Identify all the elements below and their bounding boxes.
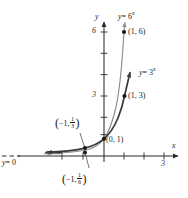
curve-label-3-eq: = 3 <box>143 68 154 77</box>
fraction-one-third: 13 <box>70 116 75 130</box>
curve-label-3-to-the-x: y= 3x <box>139 66 156 77</box>
point-label-0-1: (0, 1) <box>106 136 123 144</box>
paren-close-sixth: ) <box>83 172 87 186</box>
exponential-functions-graph: y x 6 3 3 y= 6x y= 3x (1, 6) (1, 3) (0, … <box>0 0 188 198</box>
marker-neg1-sixth <box>83 151 87 155</box>
lead-neg1-third: −1, <box>59 119 70 128</box>
fraction-one-sixth: 16 <box>77 172 82 186</box>
marker-1-6 <box>122 30 126 34</box>
point-label-1-3: (1, 3) <box>128 92 145 100</box>
x-axis-label: x <box>172 142 176 150</box>
point-label-neg1-one-sixth: (−1,16) <box>62 172 87 186</box>
asymptote-label: y= 0 <box>2 159 16 167</box>
curve-label-3-exp: x <box>153 66 156 72</box>
point-label-neg1-one-third: (−1,13) <box>55 116 80 130</box>
paren-close-third: ) <box>76 116 80 130</box>
asymptote-label-eq: = 0 <box>6 158 17 167</box>
x-axis <box>18 152 178 159</box>
x-tick-label-3: 3 <box>161 160 165 168</box>
y-tick-label-6: 6 <box>92 27 96 35</box>
y-tick-label-3: 3 <box>92 91 96 99</box>
marker-neg1-third <box>83 146 87 150</box>
curve-label-6-eq: = 6 <box>122 12 133 21</box>
marker-1-3 <box>122 94 126 98</box>
curve-label-6-exp: x <box>132 10 135 16</box>
point-label-1-6: (1, 6) <box>128 28 145 36</box>
lead-neg1-sixth: −1, <box>66 175 77 184</box>
curve-label-6-to-the-x: y= 6x <box>118 10 135 21</box>
fraction-denominator-third: 3 <box>70 122 75 129</box>
fraction-denominator-sixth: 6 <box>77 178 82 185</box>
y-axis-label: y <box>95 13 99 21</box>
